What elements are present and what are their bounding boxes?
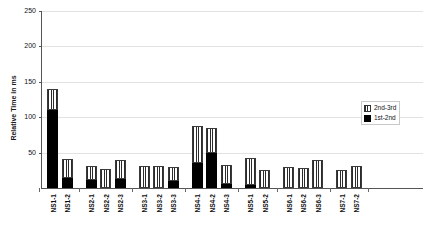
y-axis-title: Relative Time in ms: [6, 28, 20, 188]
bar-ns7-1[interactable]: [336, 170, 347, 188]
bar-segment-2nd-3rd: [336, 170, 347, 188]
x-tick-label: NS6-1: [285, 194, 292, 212]
y-tick-label: 100: [6, 113, 36, 120]
bar-ns6-3[interactable]: [312, 160, 323, 188]
x-tick-label: NS2-3: [117, 194, 124, 212]
bar-segment-1st-2nd: [47, 110, 58, 188]
x-tick-label: NS7-2: [353, 194, 360, 212]
x-tick: NS3-1: [139, 192, 150, 238]
x-tick-label: NS4-3: [223, 194, 230, 212]
bar-segment-2nd-3rd: [245, 158, 256, 185]
bar-ns6-1[interactable]: [283, 167, 294, 188]
x-tick: NS6-3: [312, 192, 323, 238]
y-tick-label: 150: [6, 78, 36, 85]
bar-segment-1st-2nd: [206, 153, 217, 188]
legend-item-2nd-3rd[interactable]: 2nd-3rd: [364, 104, 396, 112]
bar-segment-2nd-3rd: [139, 166, 150, 188]
bar-segment-2nd-3rd: [153, 166, 164, 188]
bar-segment-1st-2nd: [221, 184, 232, 188]
bar-segment-1st-2nd: [62, 178, 73, 188]
x-tick: NS2-3: [115, 192, 126, 238]
x-tick: NS1-2: [62, 192, 73, 238]
bar-ns2-3[interactable]: [115, 160, 126, 188]
bar-segment-2nd-3rd: [86, 166, 97, 179]
bar-segment-1st-2nd: [115, 179, 126, 188]
bar-segment-2nd-3rd: [259, 170, 270, 188]
x-tick-label: NS6-3: [314, 194, 321, 212]
bar-segment-2nd-3rd: [115, 160, 126, 179]
x-tick: NS2-2: [100, 192, 111, 238]
x-axis-labels: NS1-1NS1-2NS2-1NS2-2NS2-3NS3-1NS3-2NS3-3…: [41, 192, 422, 240]
x-tick-label: NS1-1: [49, 194, 56, 212]
x-tick: NS4-2: [206, 192, 217, 238]
bar-segment-2nd-3rd: [47, 89, 58, 110]
x-tick-label: NS1-2: [64, 194, 71, 212]
bar-segment-2nd-3rd: [62, 159, 73, 178]
x-tick-label: NS4-1: [194, 194, 201, 212]
bar-ns7-2[interactable]: [351, 166, 362, 188]
bars-layer: [41, 11, 422, 188]
x-tick-label: NS4-2: [208, 194, 215, 212]
bar-ns4-2[interactable]: [206, 128, 217, 188]
bar-ns3-1[interactable]: [139, 166, 150, 188]
bar-ns2-2[interactable]: [100, 169, 111, 188]
legend-label: 2nd-3rd: [374, 104, 396, 112]
y-tick-label: 200: [6, 42, 36, 49]
x-tick: NS6-1: [283, 192, 294, 238]
x-tick: NS4-1: [192, 192, 203, 238]
bar-segment-2nd-3rd: [100, 169, 111, 188]
x-tick-label: NS2-1: [88, 194, 95, 212]
bar-ns5-1[interactable]: [245, 158, 256, 188]
bar-segment-2nd-3rd: [283, 167, 294, 188]
bar-segment-2nd-3rd: [298, 168, 309, 188]
legend-label: 1st-2nd: [374, 114, 396, 122]
x-tick-label: NS3-3: [170, 194, 177, 212]
bar-segment-2nd-3rd: [221, 165, 232, 184]
x-tick: NS3-3: [168, 192, 179, 238]
x-tick: NS6-2: [298, 192, 309, 238]
x-tick: NS5-1: [245, 192, 256, 238]
chart-legend: 2nd-3rd1st-2nd: [361, 101, 400, 125]
x-tick-label: NS3-1: [141, 194, 148, 212]
x-tick: NS3-2: [153, 192, 164, 238]
bar-segment-1st-2nd: [168, 181, 179, 188]
bar-ns3-3[interactable]: [168, 167, 179, 188]
bar-segment-1st-2nd: [86, 180, 97, 188]
legend-swatch-icon: [364, 105, 371, 112]
legend-swatch-icon: [364, 115, 371, 122]
bar-segment-2nd-3rd: [192, 126, 203, 163]
x-tick: NS2-1: [86, 192, 97, 238]
x-tick: NS4-3: [221, 192, 232, 238]
x-tick-label: NS5-1: [247, 194, 254, 212]
bar-ns5-2[interactable]: [259, 170, 270, 188]
bar-segment-2nd-3rd: [206, 128, 217, 153]
x-tick-label: NS6-2: [300, 194, 307, 212]
x-tick: NS7-2: [351, 192, 362, 238]
x-tick-label: NS2-2: [102, 194, 109, 212]
x-tick: NS1-1: [47, 192, 58, 238]
bar-ns3-2[interactable]: [153, 166, 164, 188]
bar-chart: Relative Time in ms 50100150200250 NS1-1…: [0, 0, 426, 242]
x-tick-label: NS3-2: [155, 194, 162, 212]
bar-segment-1st-2nd: [192, 163, 203, 188]
bar-ns1-1[interactable]: [47, 89, 58, 188]
bar-ns2-1[interactable]: [86, 166, 97, 188]
x-tick-label: NS5-2: [261, 194, 268, 212]
y-tick-label: 250: [6, 7, 36, 14]
x-tick-label: NS7-1: [338, 194, 345, 212]
x-tick: NS7-1: [336, 192, 347, 238]
y-tick-label: 50: [6, 149, 36, 156]
bar-segment-2nd-3rd: [168, 167, 179, 180]
bar-ns4-3[interactable]: [221, 165, 232, 188]
y-axis-title-label: Relative Time in ms: [10, 75, 17, 140]
bar-segment-1st-2nd: [245, 185, 256, 188]
bar-segment-2nd-3rd: [351, 166, 362, 188]
x-group-separator: [39, 188, 40, 192]
x-tick: NS5-2: [259, 192, 270, 238]
bar-ns6-2[interactable]: [298, 168, 309, 188]
bar-segment-2nd-3rd: [312, 160, 323, 188]
legend-item-1st-2nd[interactable]: 1st-2nd: [364, 114, 396, 122]
bar-ns1-2[interactable]: [62, 159, 73, 188]
bar-ns4-1[interactable]: [192, 126, 203, 188]
